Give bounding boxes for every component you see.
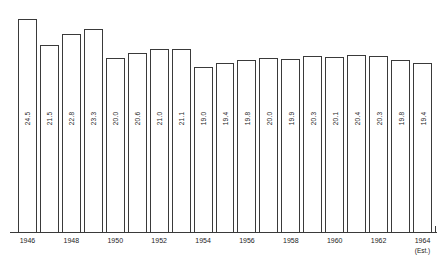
- bar: 19.8: [391, 60, 410, 232]
- bar-value-label: 19.8: [397, 112, 404, 125]
- bar-value-label: 19.4: [221, 112, 228, 125]
- bar: 20.3: [303, 56, 322, 232]
- axis-tick: [347, 226, 348, 233]
- bar-value-label: 20.0: [265, 112, 272, 125]
- bar-value-label: 20.1: [331, 112, 338, 125]
- axis-tick: [84, 226, 85, 233]
- bar: 23.3: [84, 29, 103, 232]
- bar-value-label: 19.9: [287, 112, 294, 125]
- plot-area: 24.521.522.823.320.020.621.021.119.019.4…: [18, 6, 435, 232]
- x-axis-baseline: [10, 232, 437, 233]
- bar: 21.0: [150, 49, 169, 232]
- bar-value-label: 21.1: [178, 112, 185, 125]
- bar-value-label: 21.5: [46, 112, 53, 125]
- bar: 24.5: [18, 19, 37, 232]
- bar: 21.1: [172, 49, 191, 232]
- bar-value-label: 20.0: [112, 112, 119, 125]
- bar-value-label: 19.4: [419, 112, 426, 125]
- bar: 20.1: [325, 57, 344, 232]
- year-label: 1950: [107, 237, 123, 244]
- bar: 19.8: [237, 60, 256, 232]
- axis-tick: [281, 226, 282, 233]
- bar-chart: 24.521.522.823.320.020.621.021.119.019.4…: [0, 0, 447, 259]
- bar-value-label: 24.5: [24, 112, 31, 125]
- axis-tick: [391, 226, 392, 233]
- year-label: 1960: [327, 237, 343, 244]
- year-label: 1952: [151, 237, 167, 244]
- year-label: 1964: [415, 237, 431, 244]
- bar-value-label: 20.3: [309, 112, 316, 125]
- axis-tick: [62, 226, 63, 233]
- axis-tick: [369, 226, 370, 233]
- bar: 22.8: [62, 34, 81, 232]
- bar: 19.0: [194, 67, 213, 232]
- axis-tick: [194, 226, 195, 233]
- axis-tick: [435, 226, 436, 233]
- bar: 21.5: [40, 45, 59, 232]
- year-label: 1954: [195, 237, 211, 244]
- estimate-annotation: (Est.): [415, 247, 431, 254]
- year-label: 1948: [64, 237, 80, 244]
- bar-value-label: 19.8: [243, 112, 250, 125]
- axis-tick: [150, 226, 151, 233]
- bar-value-label: 20.3: [375, 112, 382, 125]
- axis-tick: [303, 226, 304, 233]
- year-label: 1956: [239, 237, 255, 244]
- bar: 20.0: [259, 58, 278, 232]
- axis-tick: [237, 226, 238, 233]
- axis-tick: [106, 226, 107, 233]
- bar: 19.4: [216, 63, 235, 232]
- axis-tick: [325, 226, 326, 233]
- bar-value-label: 19.0: [200, 112, 207, 125]
- year-label: 1958: [283, 237, 299, 244]
- bar: 20.6: [128, 53, 147, 232]
- axis-tick: [413, 226, 414, 233]
- year-label: 1946: [20, 237, 36, 244]
- axis-tick: [18, 226, 19, 233]
- axis-tick: [40, 226, 41, 233]
- axis-tick: [259, 226, 260, 233]
- bar: 19.4: [413, 63, 432, 232]
- bar-value-label: 20.6: [134, 112, 141, 125]
- axis-tick: [128, 226, 129, 233]
- bar-value-label: 20.4: [353, 112, 360, 125]
- bar: 20.3: [369, 56, 388, 232]
- bar-value-label: 23.3: [90, 112, 97, 125]
- axis-tick: [172, 226, 173, 233]
- year-label: 1962: [371, 237, 387, 244]
- bar-value-label: 22.8: [68, 112, 75, 125]
- axis-tick: [216, 226, 217, 233]
- bar-value-label: 21.0: [156, 112, 163, 125]
- bar: 19.9: [281, 59, 300, 232]
- bar: 20.0: [106, 58, 125, 232]
- bar: 20.4: [347, 55, 366, 232]
